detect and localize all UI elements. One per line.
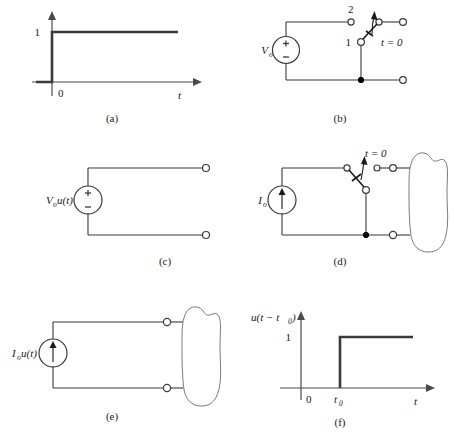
panel-f-xaxis-label: t <box>414 395 418 407</box>
panel-c-source-suffix: u(t) <box>57 194 73 207</box>
panel-f-caption: (f) <box>335 416 346 429</box>
panel-d-junction-dot <box>363 232 368 237</box>
panel-a-x-axis-arrowhead <box>193 78 202 86</box>
figure-container: 1 0 t (a) V o <box>0 0 454 435</box>
panel-b-label-terminal-1: 1 <box>346 36 352 48</box>
panel-b-junction-dot <box>358 77 363 82</box>
panel-a-ylevel-label: 1 <box>35 26 41 38</box>
panel-e-rest-of-circuit-blob <box>182 307 221 406</box>
panel-a-step-trace <box>36 32 178 82</box>
panel-b-caption: (b) <box>334 112 347 125</box>
panel-a: 1 0 t (a) <box>32 11 202 125</box>
panel-d-caption: (d) <box>334 255 347 268</box>
panel-b-contact-1[interactable] <box>358 39 365 46</box>
figure-svg: 1 0 t (a) V o <box>0 0 454 435</box>
panel-f-x-axis-arrowhead <box>426 384 435 392</box>
panel-b-label-terminal-2: 2 <box>348 3 354 15</box>
panel-f-shift-label: t <box>334 393 338 405</box>
panel-e-caption: (e) <box>106 410 119 423</box>
panel-e-terminal-top[interactable] <box>163 318 170 325</box>
panel-d: I o t = 0 (d) <box>257 147 447 268</box>
panel-d-switch-time-label: t = 0 <box>365 147 387 159</box>
panel-b-contact-2[interactable] <box>348 19 354 25</box>
panel-b-source-subscript: o <box>269 50 273 59</box>
panel-d-source-subscript: o <box>263 200 267 209</box>
panel-b: V o 2 1 t = 0 (b) <box>261 3 406 125</box>
panel-b-switch-blade[interactable] <box>363 24 377 39</box>
panel-d-terminal-bottom[interactable] <box>389 231 396 238</box>
panel-f: 1 0 t 0 t u(t − t 0 ) (f) <box>251 311 435 429</box>
panel-f-yaxis-label: u(t − t <box>251 311 280 324</box>
panel-c-caption: (c) <box>159 255 172 268</box>
panel-c: V o u(t) (c) <box>46 165 210 269</box>
panel-d-rest-of-circuit-blob <box>409 153 448 252</box>
panel-d-contact-right-inner[interactable] <box>374 165 380 171</box>
panel-f-step-trace <box>340 337 413 388</box>
panel-f-shift-subscript: 0 <box>339 399 343 408</box>
panel-f-ylevel-label: 1 <box>286 331 292 343</box>
panel-e-current-arrow-head <box>50 341 57 348</box>
panel-e-terminal-bottom[interactable] <box>163 384 170 391</box>
panel-c-terminal-bottom[interactable] <box>203 232 210 239</box>
panel-b-terminal-bottom[interactable] <box>400 77 407 84</box>
panel-c-terminal-top[interactable] <box>203 165 210 172</box>
panel-a-origin-label: 0 <box>58 87 64 99</box>
panel-f-origin-label: 0 <box>306 393 312 405</box>
panel-f-y-axis-arrowhead <box>297 311 305 320</box>
panel-a-caption: (a) <box>106 112 119 125</box>
panel-f-yaxis-label-close: ) <box>291 311 296 324</box>
panel-a-xaxis-label: t <box>178 89 182 101</box>
panel-b-terminal-top[interactable] <box>400 19 407 26</box>
panel-e-source-suffix: u(t) <box>21 347 37 360</box>
panel-d-contact-pole[interactable] <box>363 187 370 194</box>
panel-a-y-axis-arrowhead <box>48 11 56 20</box>
panel-d-contact-right-outer[interactable] <box>390 165 397 172</box>
panel-d-current-arrow-head <box>279 188 286 195</box>
panel-b-switch-motion-arrowhead <box>371 11 378 20</box>
panel-e: I o u(t) (e) <box>11 307 221 423</box>
panel-b-switch-time-label: t = 0 <box>381 36 403 48</box>
